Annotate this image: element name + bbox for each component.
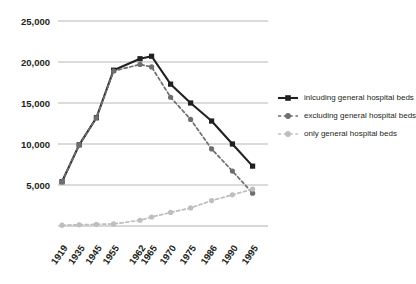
data-series-group bbox=[59, 54, 255, 228]
data-point-marker bbox=[137, 218, 142, 223]
data-point-marker bbox=[149, 214, 154, 219]
data-point-marker bbox=[168, 210, 173, 215]
legend-swatch-marker bbox=[285, 113, 291, 119]
x-tick-label: 1945 bbox=[83, 242, 105, 266]
y-tick-label: 5,000 bbox=[26, 180, 50, 191]
legend-entry-label: excluding general hospital beds bbox=[304, 111, 416, 120]
data-point-marker bbox=[111, 221, 116, 226]
data-point-marker bbox=[230, 168, 235, 173]
data-point-marker bbox=[149, 54, 154, 59]
chart-legend: inlcuding general hospital bedsexcluding… bbox=[278, 93, 416, 138]
data-point-marker bbox=[250, 187, 255, 192]
data-point-marker bbox=[250, 164, 255, 169]
data-point-marker bbox=[149, 64, 154, 69]
data-point-marker bbox=[111, 68, 116, 73]
x-tick-label: 1990 bbox=[219, 243, 240, 267]
y-tick-label: 10,000 bbox=[21, 139, 50, 150]
data-point-marker bbox=[59, 223, 64, 228]
chart-svg: 5,00010,00015,00020,00025,000 1919193519… bbox=[0, 0, 416, 284]
x-tick-label: 1975 bbox=[177, 242, 199, 266]
x-axis-tick-labels: 1919193519451955196219651970197519861990… bbox=[49, 242, 261, 266]
data-point-marker bbox=[137, 62, 142, 67]
data-point-marker bbox=[77, 222, 82, 227]
data-point-marker bbox=[209, 198, 214, 203]
data-point-marker bbox=[168, 95, 173, 100]
legend-swatch-marker bbox=[285, 131, 291, 137]
legend-entry-label: inlcuding general hospital beds bbox=[304, 93, 414, 102]
legend-entry-label: only general hospital beds bbox=[304, 129, 397, 138]
data-point-marker bbox=[94, 222, 99, 227]
y-tick-label: 15,000 bbox=[21, 98, 50, 109]
x-tick-label: 1919 bbox=[49, 243, 70, 267]
data-point-marker bbox=[94, 115, 99, 120]
data-point-marker bbox=[168, 82, 173, 87]
data-point-marker bbox=[188, 100, 193, 105]
x-tick-label: 1955 bbox=[100, 242, 122, 266]
data-point-marker bbox=[137, 56, 142, 61]
data-point-marker bbox=[59, 179, 64, 184]
data-point-marker bbox=[209, 118, 214, 123]
data-point-marker bbox=[230, 141, 235, 146]
series-line-2 bbox=[62, 189, 253, 225]
data-point-marker bbox=[188, 117, 193, 122]
y-axis-tick-labels: 5,00010,00015,00020,00025,000 bbox=[21, 16, 50, 191]
data-point-marker bbox=[209, 146, 214, 151]
x-tick-label: 1935 bbox=[66, 242, 88, 266]
x-tick-label: 1995 bbox=[239, 242, 261, 266]
gridlines-group bbox=[58, 21, 268, 226]
y-tick-label: 20,000 bbox=[21, 57, 50, 68]
chart-figure: 5,00010,00015,00020,00025,000 1919193519… bbox=[0, 0, 416, 284]
legend-swatch-marker bbox=[285, 95, 291, 101]
data-point-marker bbox=[77, 142, 82, 147]
data-point-marker bbox=[188, 205, 193, 210]
x-tick-label: 1970 bbox=[157, 243, 178, 267]
y-tick-label: 25,000 bbox=[21, 16, 50, 27]
data-point-marker bbox=[230, 192, 235, 197]
x-tick-label: 1986 bbox=[198, 243, 219, 267]
